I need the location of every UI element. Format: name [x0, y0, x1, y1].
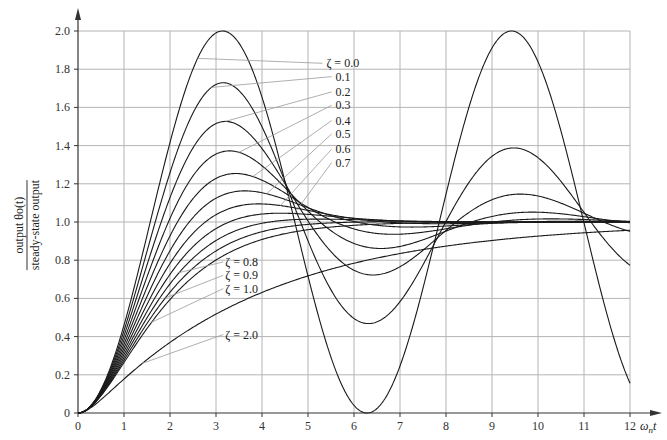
svg-text:1.8: 1.8 [55, 62, 70, 76]
zeta-label: 0.6 [336, 142, 351, 156]
svg-text:4: 4 [259, 419, 265, 433]
x-axis-label: ωnt [640, 419, 657, 435]
svg-text:6: 6 [351, 419, 357, 433]
zeta-label: ζ = 2.0 [225, 328, 258, 342]
y-axis-label: output θo(t) steady-state output [2, 160, 52, 290]
svg-text:11: 11 [578, 419, 590, 433]
svg-text:12: 12 [624, 419, 636, 433]
zeta-label: 0.2 [336, 85, 351, 99]
svg-text:0.6: 0.6 [55, 291, 70, 305]
svg-text:9: 9 [489, 419, 495, 433]
y-axis-label-denominator: steady-state output [28, 180, 43, 270]
zeta-label: 0.1 [336, 70, 351, 84]
svg-text:1.6: 1.6 [55, 100, 70, 114]
svg-text:1.4: 1.4 [55, 139, 70, 153]
svg-text:7: 7 [397, 419, 403, 433]
svg-text:0: 0 [75, 419, 81, 433]
svg-text:10: 10 [532, 419, 544, 433]
svg-text:8: 8 [443, 419, 449, 433]
svg-text:0.2: 0.2 [55, 368, 70, 382]
svg-text:5: 5 [305, 419, 311, 433]
zeta-label: ζ = 1.0 [225, 282, 258, 296]
zeta-label: 0.3 [336, 98, 351, 112]
zeta-labels: ζ = 0.00.10.20.30.40.50.60.7ζ = 0.8ζ = 0… [142, 56, 359, 363]
svg-text:1.2: 1.2 [55, 177, 70, 191]
svg-text:3: 3 [213, 419, 219, 433]
svg-text:2: 2 [167, 419, 173, 433]
y-axis-label-numerator: output θo(t) [12, 180, 28, 270]
svg-text:0.8: 0.8 [55, 253, 70, 267]
zeta-label: ζ = 0.0 [326, 56, 359, 70]
zeta-label: 0.5 [336, 127, 351, 141]
svg-text:0.4: 0.4 [55, 330, 70, 344]
svg-text:2.0: 2.0 [55, 24, 70, 38]
zeta-label: ζ = 0.8 [225, 255, 258, 269]
zeta-label: 0.4 [336, 114, 351, 128]
svg-text:0: 0 [64, 406, 70, 420]
zeta-label: 0.7 [336, 156, 351, 170]
svg-text:1: 1 [121, 419, 127, 433]
zeta-label: ζ = 0.9 [225, 268, 258, 282]
svg-text:1.0: 1.0 [55, 215, 70, 229]
step-response-chart: 012345678910111200.20.40.60.81.01.21.41.… [0, 0, 667, 440]
